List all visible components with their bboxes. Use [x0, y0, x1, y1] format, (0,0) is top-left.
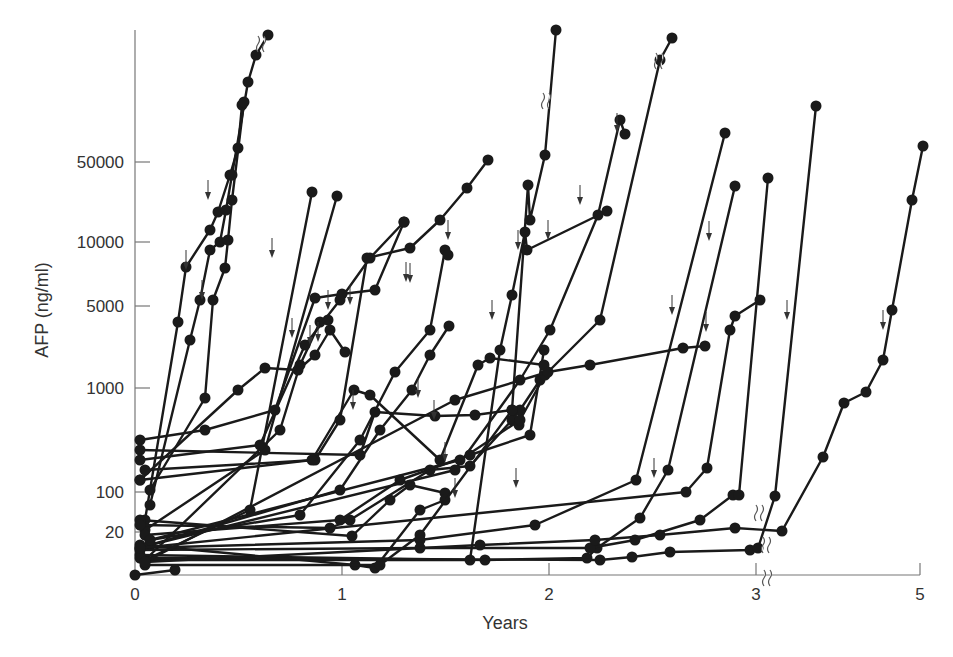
data-point	[415, 505, 426, 516]
data-point	[223, 235, 234, 246]
data-point	[495, 345, 506, 356]
data-point	[399, 217, 410, 228]
data-point	[349, 385, 360, 396]
data-point	[140, 465, 151, 476]
data-point	[195, 295, 206, 306]
data-point	[239, 97, 250, 108]
data-point	[443, 250, 454, 261]
data-point	[470, 410, 481, 421]
down-arrow-icon	[289, 318, 295, 338]
data-point	[525, 430, 536, 441]
down-arrow-icon	[651, 458, 657, 478]
down-arrow-icon	[577, 185, 583, 205]
data-point	[145, 535, 156, 546]
down-arrow-icon	[784, 300, 790, 320]
data-point	[275, 425, 286, 436]
data-point	[520, 227, 531, 238]
data-point	[730, 181, 741, 192]
data-point	[135, 520, 146, 531]
data-point	[878, 355, 889, 366]
data-point	[444, 321, 455, 332]
data-point	[390, 367, 401, 378]
data-point	[173, 317, 184, 328]
data-point	[681, 487, 692, 498]
down-arrow-icon	[513, 468, 519, 488]
data-point	[208, 295, 219, 306]
data-point	[335, 295, 346, 306]
data-point	[375, 425, 386, 436]
down-arrow-icon	[489, 300, 495, 320]
down-arrow-icon	[269, 238, 275, 258]
down-arrow-icon	[545, 220, 551, 240]
y-tick-label: 1000	[86, 379, 124, 398]
data-point	[332, 191, 343, 202]
data-point	[730, 311, 741, 322]
data-point	[595, 555, 606, 566]
data-point	[590, 535, 601, 546]
data-point	[145, 500, 156, 511]
data-point	[255, 440, 266, 451]
data-point	[543, 367, 554, 378]
data-point	[233, 385, 244, 396]
data-point	[839, 398, 850, 409]
data-point	[462, 183, 473, 194]
break-marks	[257, 36, 772, 586]
data-point	[720, 128, 731, 139]
data-point	[627, 552, 638, 563]
data-point	[861, 387, 872, 398]
data-point	[450, 465, 461, 476]
axis-break-icon	[755, 505, 764, 521]
data-point	[145, 485, 156, 496]
series-line	[145, 196, 337, 530]
down-arrow-icon	[407, 263, 413, 283]
data-point	[582, 553, 593, 564]
y-axis-label: AFP (ng/ml)	[32, 262, 52, 358]
data-point	[887, 305, 898, 316]
data-point	[585, 360, 596, 371]
data-point	[663, 465, 674, 476]
data-point	[370, 285, 381, 296]
data-point	[665, 547, 676, 558]
down-arrow-icon	[706, 221, 712, 241]
data-point	[455, 455, 466, 466]
data-point	[522, 245, 533, 256]
x-tick-label: 1	[337, 585, 346, 604]
data-point	[365, 390, 376, 401]
data-point	[631, 475, 642, 486]
data-point	[593, 210, 604, 221]
data-point	[340, 347, 351, 358]
data-point	[725, 325, 736, 336]
x-ticks: 01235	[130, 563, 924, 604]
down-arrow-icon	[669, 295, 675, 315]
data-point	[425, 350, 436, 361]
x-tick-label: 2	[544, 585, 553, 604]
data-point	[135, 455, 146, 466]
data-point	[655, 530, 666, 541]
patient-series	[145, 33, 678, 546]
data-point	[777, 526, 788, 537]
data-point	[635, 513, 646, 524]
x-axis-label: Years	[482, 613, 527, 633]
data-point	[545, 325, 556, 336]
data-point	[135, 445, 146, 456]
data-point	[335, 515, 346, 526]
data-point	[523, 180, 534, 191]
data-point	[135, 435, 146, 446]
y-tick-label: 10000	[77, 233, 124, 252]
data-point	[818, 452, 829, 463]
data-point	[667, 33, 678, 44]
data-point	[362, 253, 373, 264]
down-arrow-icon	[325, 290, 331, 310]
data-point	[307, 455, 318, 466]
data-point	[243, 77, 254, 88]
data-point	[763, 173, 774, 184]
data-point	[220, 263, 231, 274]
x-tick-label: 0	[130, 585, 139, 604]
axis-break-icon	[762, 537, 771, 553]
data-point	[907, 195, 918, 206]
data-point	[530, 520, 541, 531]
data-point	[678, 343, 689, 354]
data-point	[130, 570, 141, 581]
data-point	[205, 225, 216, 236]
data-point	[507, 405, 518, 416]
